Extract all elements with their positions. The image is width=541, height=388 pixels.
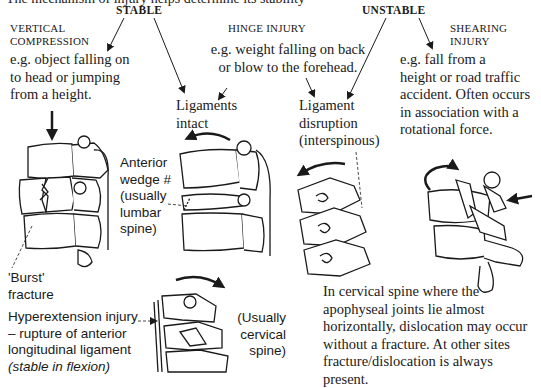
arrow-hinge-to-disruption-icon: [306, 78, 314, 96]
burst-fracture-label: 'Burst' fracture: [8, 270, 54, 303]
cervical-spine-note: In cervical spine where the apophyseal j…: [323, 283, 541, 388]
extension-arrow-icon: [176, 277, 222, 286]
arrow-unstable-to-shearing-icon: [419, 18, 432, 48]
flexion-arrow-icon: [188, 133, 230, 140]
heading-unstable: UNSTABLE: [362, 4, 426, 16]
arrow-stable-to-vertical-icon: [108, 18, 124, 50]
ligament-disruption-illustration: [298, 152, 370, 276]
stable-in-flexion-note: (stable in flexion): [8, 359, 138, 376]
hyperextension-label: Hyperextension injury – rupture of anter…: [8, 309, 138, 375]
flexion-arrow-icon: [300, 163, 345, 174]
hinge-injury-example: e.g. weight falling on back or blow to t…: [193, 41, 383, 76]
vertical-compression-example: e.g. object falling on to head or jumpin…: [10, 51, 130, 104]
anterior-wedge-label: Anterior wedge # (usually lumbar spine): [120, 155, 171, 238]
anterior-wedge-illustration: [168, 133, 270, 256]
category-shearing-injury: SHEARING INJURY: [450, 22, 507, 48]
heading-stable: STABLE: [116, 4, 162, 16]
arrow-stable-to-ligaments-intact-icon: [154, 18, 184, 92]
ligament-disruption-label: Ligament disruption (interspinous): [299, 97, 380, 150]
category-hinge-injury: HINGE INJURY: [228, 22, 306, 35]
category-vertical-compression: VERTICAL COMPRESSION: [10, 22, 89, 48]
hyperextension-illustration: [138, 277, 228, 372]
shearing-injury-example: e.g. fall from a height or road traffic …: [400, 51, 530, 139]
shear-force-arrow-icon: [510, 196, 532, 200]
ligaments-intact-label: Ligaments intact: [176, 97, 237, 132]
burst-fracture-illustration: [12, 111, 108, 268]
rotation-arrow-icon: [425, 166, 456, 190]
usually-cervical-label: (Usually cervical spine): [232, 310, 286, 360]
shearing-illustration: [425, 166, 532, 292]
